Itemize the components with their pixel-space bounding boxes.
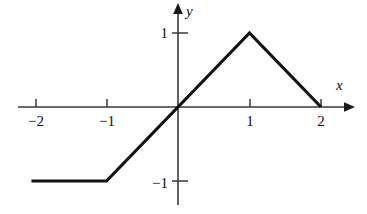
- y-axis-arrow-icon: [173, 3, 183, 14]
- x-tick-label-minus2: −2: [22, 114, 50, 129]
- y-tick-label-1: 1: [152, 26, 168, 41]
- graph-canvas: [0, 0, 367, 214]
- function-graph-figure: y x −2 −1 1 2 1 −1: [0, 0, 367, 214]
- x-axis-arrow-icon: [344, 102, 355, 112]
- x-tick-label-2: 2: [311, 114, 331, 129]
- x-axis-label: x: [336, 78, 343, 93]
- x-tick-label-1: 1: [240, 114, 260, 129]
- y-tick-label-minus1: −1: [140, 176, 168, 191]
- y-axis-label: y: [186, 4, 193, 19]
- x-tick-label-minus1: −1: [93, 114, 121, 129]
